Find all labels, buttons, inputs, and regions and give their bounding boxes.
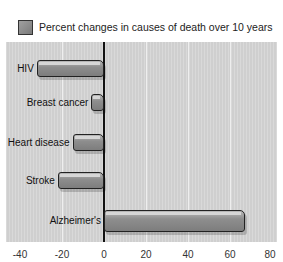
category-label: Breast cancer — [27, 97, 89, 108]
x-tick-label: -20 — [55, 249, 69, 260]
chart-legend: Percent changes in causes of death over … — [18, 19, 272, 35]
bar-stroke — [58, 172, 104, 189]
x-tick-label: 0 — [101, 249, 107, 260]
x-tick-label: 20 — [140, 249, 151, 260]
category-label: HIV — [17, 63, 34, 74]
bar-alzheimers — [104, 210, 245, 232]
x-tick-label: 40 — [182, 249, 193, 260]
x-tick-label: 60 — [224, 249, 235, 260]
category-label: Stroke — [26, 175, 55, 186]
plot-area: HIV Breast cancer Heart disease Stroke A… — [6, 42, 277, 242]
category-label: Heart disease — [8, 137, 70, 148]
x-tick-label: 80 — [264, 249, 275, 260]
legend-swatch — [18, 20, 33, 35]
bar-hiv — [37, 60, 104, 77]
category-label: Alzheimer's — [50, 215, 101, 226]
x-tick-label: -40 — [13, 249, 27, 260]
bar-heart-disease — [73, 134, 105, 151]
legend-label: Percent changes in causes of death over … — [39, 21, 272, 33]
bar-breast-cancer — [91, 94, 104, 111]
